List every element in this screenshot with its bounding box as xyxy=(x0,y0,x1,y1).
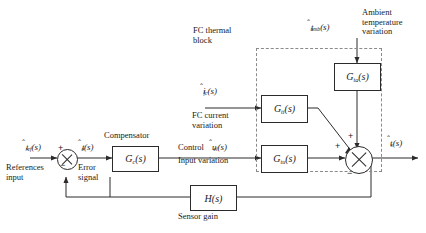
block-g-tu-label: Gtu(s) xyxy=(273,153,296,165)
block-g-tu[interactable]: Gtu(s) xyxy=(261,145,308,173)
annotation-input-variation: Input variation xyxy=(178,156,228,166)
sign-output-plus-top: + xyxy=(348,131,353,141)
block-g-ti[interactable]: Gti(s) xyxy=(261,95,308,123)
annotation-compensator: Compensator xyxy=(104,131,149,141)
label-reference-signal: t̂ref(s) xyxy=(26,142,41,153)
annotation-ambient-line3: variation xyxy=(362,27,403,37)
block-g-ti-label: Gti(s) xyxy=(274,103,295,115)
annotation-sensor-gain: Sensor gain xyxy=(178,212,218,222)
annotation-fc-current-variation: FC current variation xyxy=(192,111,229,130)
annotation-error-line2: signal xyxy=(78,173,98,183)
block-compensator-label: Gc(s) xyxy=(125,153,146,165)
control-block-diagram: Gc(s) Gti(s) Gtu(s) Gta(s) H(s) + − + + … xyxy=(0,0,426,233)
block-g-ta-label: Gta(s) xyxy=(346,71,369,83)
annotation-references-input: References input xyxy=(6,163,44,182)
sign-output-plus-left: + xyxy=(335,141,340,151)
annotation-fc-thermal-block: FC thermal block xyxy=(193,26,231,45)
annotation-fc-thermal-line2: block xyxy=(193,36,231,46)
block-sensor-gain[interactable]: H(s) xyxy=(190,185,237,211)
annotation-ambient-temperature-variation: Ambient temperature variation xyxy=(362,8,403,37)
sign-input-minus: − xyxy=(60,160,65,170)
block-compensator[interactable]: Gc(s) xyxy=(112,146,159,172)
label-error-signal-var: t̂e(s) xyxy=(82,142,94,153)
annotation-fc-current-line2: variation xyxy=(192,121,229,131)
label-output-signal: t̂s(s) xyxy=(390,138,402,149)
label-control-signal-var: ûcl(s) xyxy=(212,142,227,153)
annotation-control-label: Control xyxy=(178,143,204,153)
label-ambient-var: t̂amb(s) xyxy=(311,22,330,33)
sign-input-plus: + xyxy=(58,143,63,153)
label-fc-current-var: îfc(s) xyxy=(203,86,217,97)
annotation-error-signal: Error signal xyxy=(78,163,98,182)
block-sensor-gain-label: H(s) xyxy=(205,193,223,204)
block-g-ta[interactable]: Gta(s) xyxy=(334,63,381,91)
sign-output-minus-bottom: − xyxy=(347,168,352,178)
annotation-references-line2: input xyxy=(6,173,44,183)
